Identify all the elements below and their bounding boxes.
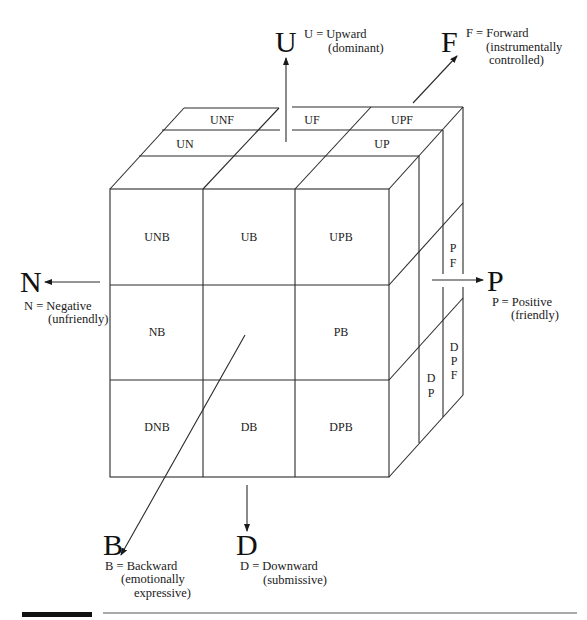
cell-pf-2: F	[450, 256, 457, 270]
cell-dp-1: D	[427, 371, 436, 385]
axis-def-f-3: controlled)	[489, 53, 544, 67]
axis-letter-p: P	[487, 264, 504, 297]
cell-up: UP	[374, 137, 390, 151]
axis-def-b-2: (emotionally	[121, 572, 186, 586]
cell-dnb: DNB	[144, 420, 169, 434]
footer-thick-rule	[22, 612, 92, 617]
cell-dp-2: P	[428, 386, 435, 400]
cell-unf: UNF	[210, 113, 234, 127]
cell-un: UN	[176, 137, 194, 151]
axis-def-f-2: (instrumentally	[486, 40, 563, 54]
axis-def-u-1: U = Upward	[304, 27, 367, 41]
cell-pb: PB	[334, 325, 349, 339]
cell-db: DB	[241, 420, 258, 434]
cell-dpb: DPB	[329, 420, 352, 434]
axis-def-n-2: (unfriendly)	[48, 312, 108, 326]
cell-dpf-3: F	[451, 368, 458, 382]
axis-def-u-2: (dominant)	[328, 41, 384, 55]
right-face	[389, 107, 463, 477]
axis-def-p-2: (friendly)	[511, 308, 559, 322]
cell-ub: UB	[241, 230, 258, 244]
axis-def-p-1: P = Positive	[492, 295, 553, 309]
cell-upb: UPB	[329, 230, 352, 244]
cell-dpf-2: P	[451, 354, 458, 368]
cell-uf: UF	[304, 113, 320, 127]
cell-dpf-1: D	[450, 340, 459, 354]
axis-letter-u: U	[275, 25, 297, 58]
arrow-forward	[413, 56, 457, 103]
cell-unb: UNB	[144, 230, 169, 244]
axis-def-n-1: N = Negative	[24, 299, 92, 313]
cell-upf: UPF	[391, 113, 413, 127]
axis-letter-b: B	[103, 528, 123, 561]
axis-def-d-1: D = Downward	[240, 559, 319, 573]
arrow-backward	[121, 335, 245, 555]
axis-letter-d: D	[236, 528, 258, 561]
axis-def-d-2: (submissive)	[263, 573, 327, 587]
axis-letter-f: F	[441, 25, 458, 58]
axis-def-f-1: F = Forward	[466, 26, 529, 40]
axis-def-b-1: B = Backward	[105, 559, 178, 573]
cube-diagram: UNB UB UPB NB PB DNB DB DPB UNF UF UPF U…	[0, 0, 587, 620]
cell-pf-1: P	[450, 241, 457, 255]
axis-def-b-3: expressive)	[134, 586, 191, 600]
axis-letter-n: N	[20, 265, 42, 298]
cell-nb: NB	[149, 325, 166, 339]
